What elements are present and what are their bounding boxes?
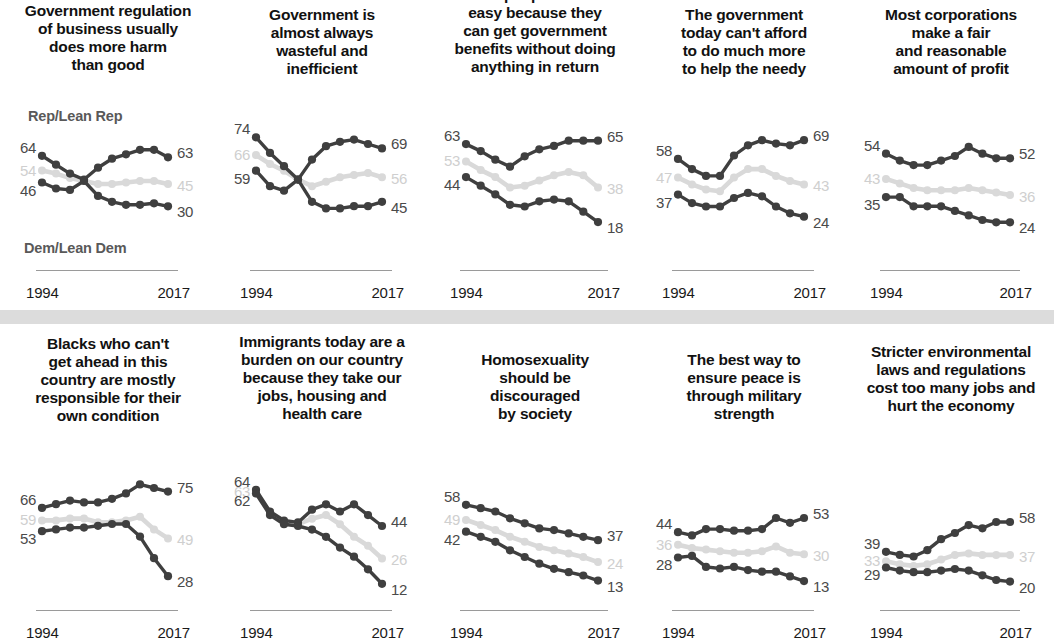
end-value-label-rep: 58: [1019, 509, 1035, 526]
axis-rule: [672, 270, 814, 271]
row-separator-band: [0, 310, 1054, 324]
line-plot: [644, 0, 844, 310]
axis-start-year: 1994: [450, 284, 483, 301]
start-value-label-tot: 43: [864, 170, 880, 187]
end-value-label-rep: 69: [813, 127, 829, 144]
end-value-label-tot: 49: [177, 531, 193, 548]
axis-start-year: 1994: [662, 284, 695, 301]
end-value-label-dem: 13: [813, 578, 829, 595]
end-value-label-rep: 52: [1019, 145, 1035, 162]
axis-end-year: 2017: [371, 624, 404, 641]
series-dem: [882, 193, 1014, 226]
axis-end-year: 2017: [157, 284, 190, 301]
start-value-label-tot: 47: [656, 169, 672, 186]
end-value-label-dem: 12: [391, 581, 407, 598]
start-value-label-tot: 59: [20, 511, 36, 528]
legend-rep-lean-rep: Rep/Lean Rep: [28, 108, 122, 124]
axis-end-year: 2017: [999, 284, 1032, 301]
start-value-label-rep: 58: [656, 142, 672, 159]
axis-end-year: 2017: [157, 624, 190, 641]
axis-rule: [250, 610, 392, 611]
end-value-label-rep: 37: [607, 527, 623, 544]
axis-rule: [460, 270, 608, 271]
start-value-label-dem: 44: [444, 176, 460, 193]
axis-rule: [880, 610, 1020, 611]
start-value-label-dem: 59: [234, 170, 250, 187]
end-value-label-tot: 45: [177, 177, 193, 194]
end-value-label-dem: 24: [1019, 219, 1035, 236]
end-value-label-tot: 26: [391, 551, 407, 568]
axis-end-year: 2017: [587, 624, 620, 641]
axis-start-year: 1994: [450, 624, 483, 641]
series-dem: [674, 189, 808, 221]
start-value-label-rep: 64: [20, 139, 36, 156]
series-dem: [674, 552, 808, 585]
end-value-label-dem: 30: [177, 203, 193, 220]
series-rep: [38, 480, 172, 512]
start-value-label-tot: 54: [20, 162, 36, 179]
start-value-label-rep: 63: [444, 127, 460, 144]
line-plot: [432, 327, 638, 642]
axis-start-year: 1994: [26, 624, 59, 641]
axis-start-year: 1994: [662, 624, 695, 641]
series-rep: [882, 143, 1014, 169]
series-rep: [252, 486, 386, 530]
end-value-label-tot: 38: [607, 180, 623, 197]
start-value-label-dem: 62: [234, 492, 250, 509]
start-value-label-rep: 66: [20, 491, 36, 508]
start-value-label-dem: 46: [20, 182, 36, 199]
end-value-label-tot: 37: [1019, 548, 1035, 565]
chart-panel-3: Poor people have it easy because they ca…: [432, 0, 638, 310]
start-value-label-tot: 53: [444, 152, 460, 169]
start-value-label-rep: 44: [656, 515, 672, 532]
axis-rule: [250, 270, 392, 271]
axis-end-year: 2017: [793, 284, 826, 301]
start-value-label-tot: 36: [656, 536, 672, 553]
axis-start-year: 1994: [240, 284, 273, 301]
start-value-label-dem: 42: [444, 531, 460, 548]
chart-panel-1: Government regulation of business usuall…: [8, 0, 208, 310]
series-total: [252, 488, 386, 563]
chart-panel-7: Immigrants today are a burden on our cou…: [222, 327, 422, 642]
series-rep: [462, 137, 602, 171]
axis-rule: [460, 610, 608, 611]
line-plot: [222, 0, 422, 310]
end-value-label-dem: 28: [177, 573, 193, 590]
axis-start-year: 1994: [870, 284, 903, 301]
start-value-label-dem: 37: [656, 194, 672, 211]
series-rep: [674, 514, 808, 540]
end-value-label-tot: 43: [813, 177, 829, 194]
axis-start-year: 1994: [870, 624, 903, 641]
series-dem: [252, 489, 386, 588]
axis-end-year: 2017: [587, 284, 620, 301]
axis-end-year: 2017: [999, 624, 1032, 641]
start-value-label-tot: 49: [444, 511, 460, 528]
start-value-label-dem: 29: [864, 566, 880, 583]
chart-panel-5: Most corporations make a fair and reason…: [852, 0, 1050, 310]
end-value-label-rep: 69: [391, 135, 407, 152]
axis-start-year: 1994: [26, 284, 59, 301]
start-value-label-rep: 58: [444, 488, 460, 505]
axis-rule: [880, 270, 1020, 271]
end-value-label-rep: 63: [177, 144, 193, 161]
start-value-label-dem: 53: [20, 530, 36, 547]
axis-rule: [672, 610, 814, 611]
start-value-label-tot: 66: [234, 146, 250, 163]
start-value-label-rep: 39: [864, 535, 880, 552]
start-value-label-dem: 35: [864, 196, 880, 213]
end-value-label-rep: 65: [607, 128, 623, 145]
chart-panel-10: Stricter environmental laws and regulati…: [852, 327, 1050, 642]
chart-panel-8: Homosexuality should be discouraged by s…: [432, 327, 638, 642]
end-value-label-dem: 20: [1019, 579, 1035, 596]
end-value-label-dem: 24: [813, 214, 829, 231]
axis-start-year: 1994: [240, 624, 273, 641]
chart-panel-2: Government is almost always wasteful and…: [222, 0, 422, 310]
series-total: [38, 167, 172, 188]
line-plot: [432, 0, 638, 310]
end-value-label-rep: 53: [813, 505, 829, 522]
end-value-label-dem: 45: [391, 199, 407, 216]
end-value-label-tot: 36: [1019, 188, 1035, 205]
axis-end-year: 2017: [371, 284, 404, 301]
end-value-label-rep: 44: [391, 513, 407, 530]
